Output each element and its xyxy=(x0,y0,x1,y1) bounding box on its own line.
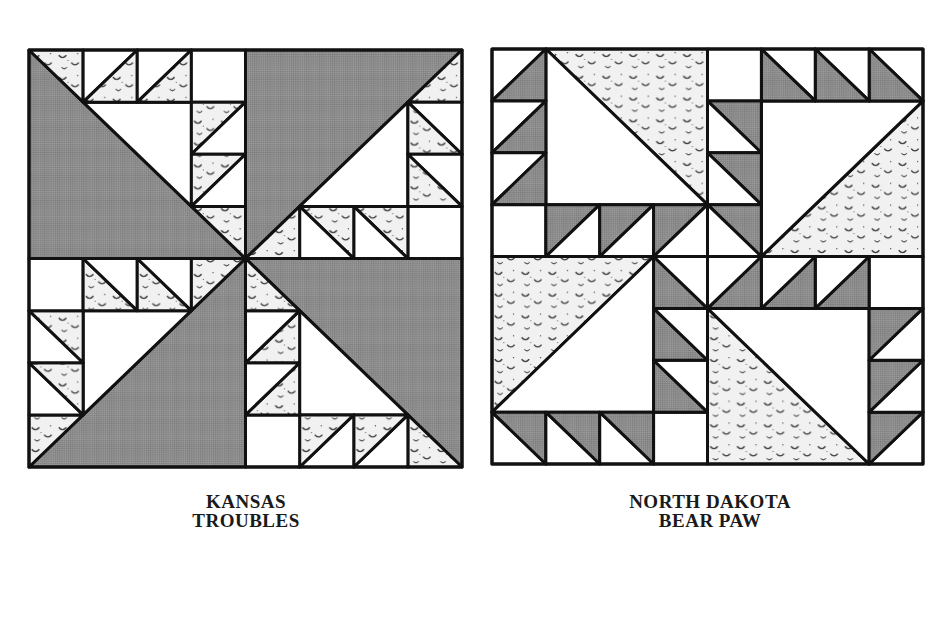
white-square xyxy=(408,206,462,258)
kansas-troubles-caption: KANSAS TROUBLES xyxy=(146,492,346,530)
white-square xyxy=(246,415,300,467)
white-square xyxy=(654,412,708,464)
kansas-caption-line1: KANSAS xyxy=(146,492,346,511)
white-square xyxy=(869,257,923,309)
white-square xyxy=(492,205,546,257)
white-square xyxy=(191,50,245,102)
kansas-caption-line2: TROUBLES xyxy=(146,511,346,530)
white-square xyxy=(708,49,762,101)
kansas-troubles-diagram xyxy=(29,50,462,467)
north-dakota-bear-paw-quilt-block xyxy=(492,49,923,464)
kansas-troubles-quilt-block xyxy=(29,50,462,467)
white-square xyxy=(29,259,83,311)
north-dakota-bear-paw-caption: NORTH DAKOTA BEAR PAW xyxy=(560,492,860,530)
north-dakota-bear-paw-diagram xyxy=(492,49,923,464)
bearpaw-caption-line2: BEAR PAW xyxy=(560,511,860,530)
bearpaw-caption-line1: NORTH DAKOTA xyxy=(560,492,860,511)
